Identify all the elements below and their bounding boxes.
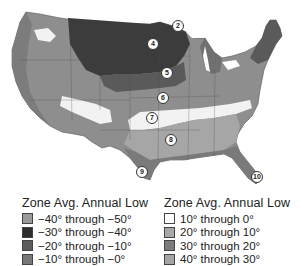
legend-label: 40° through 30° — [180, 253, 260, 265]
legend-label: 30° through 20° — [180, 240, 260, 252]
legend-swatch — [22, 213, 33, 224]
legend-label: −40° through −50° — [38, 213, 132, 225]
legend-label: −20° through −10° — [38, 240, 132, 252]
legend-item: 10° through 0° — [164, 212, 290, 226]
zone-marker-10: 10 — [251, 171, 263, 183]
zone-marker-2: 2 — [172, 20, 184, 32]
legend-swatch — [164, 213, 175, 224]
legend-label: 20° through 10° — [180, 226, 260, 238]
legend-item: 20° through 10° — [164, 226, 290, 240]
zone-marker-8: 8 — [165, 134, 177, 146]
legend-item: 40° through 30° — [164, 253, 290, 266]
legend-left: Zone Avg. Annual Low −40° through −50° −… — [22, 196, 148, 266]
legend-swatch — [22, 254, 33, 265]
zone-marker-4: 4 — [147, 38, 159, 50]
legend-swatch — [22, 227, 33, 238]
legend-swatch — [164, 254, 175, 265]
zone-marker-5: 5 — [161, 67, 173, 79]
zone-marker-6: 6 — [157, 92, 169, 104]
legend-swatch — [22, 240, 33, 251]
legend-item: −30° through −40° — [22, 226, 148, 240]
legend-item: −40° through −50° — [22, 212, 148, 226]
legend-label: 10° through 0° — [180, 213, 254, 225]
legend-title: Zone Avg. Annual Low — [164, 196, 290, 210]
legend-item: 30° through 20° — [164, 239, 290, 253]
legend-label: −10° through −0° — [38, 253, 125, 265]
legend-swatch — [164, 227, 175, 238]
legend-label: −30° through −40° — [38, 226, 132, 238]
legend-item: −10° through −0° — [22, 253, 148, 266]
legend-item: −20° through −10° — [22, 239, 148, 253]
zone-northeast-region — [250, 20, 282, 64]
legend-title: Zone Avg. Annual Low — [22, 196, 148, 210]
us-hardiness-zone-map — [0, 0, 307, 195]
zone-marker-7: 7 — [146, 112, 158, 124]
legend-right: Zone Avg. Annual Low 10° through 0° 20° … — [164, 196, 290, 266]
legend-swatch — [164, 240, 175, 251]
zone-marker-9: 9 — [136, 166, 148, 178]
